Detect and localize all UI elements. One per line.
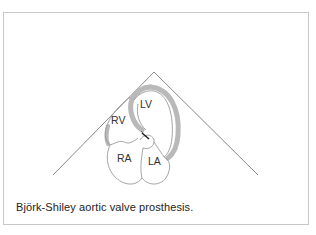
heart-outline — [105, 91, 172, 184]
label-la: LA — [148, 155, 161, 167]
label-lv: LV — [140, 98, 152, 110]
label-rv: RV — [111, 114, 125, 126]
echocardiogram-diagram: LV RV RA LA — [0, 0, 316, 235]
figure-caption: Björk-Shiley aortic valve prosthesis. — [16, 201, 193, 213]
label-ra: RA — [117, 152, 132, 164]
